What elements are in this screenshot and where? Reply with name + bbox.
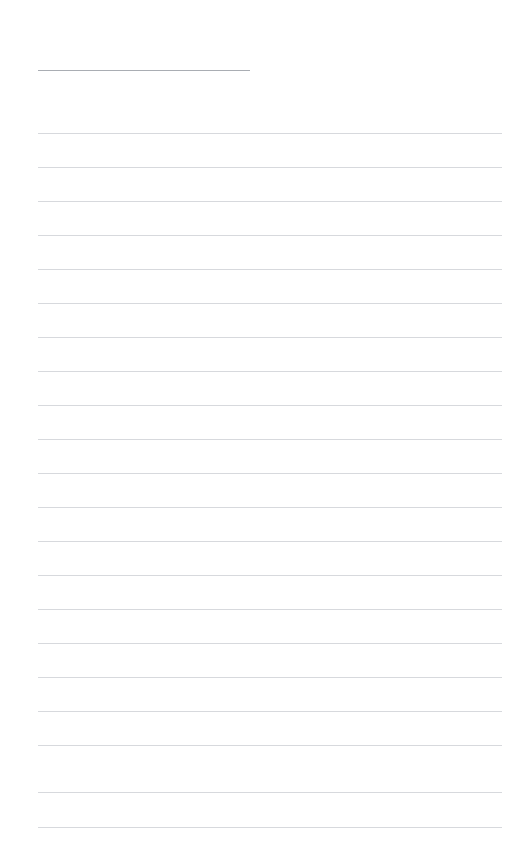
text-line-13[interactable] [38, 508, 502, 541]
text-line-10[interactable] [38, 406, 502, 439]
rule-line-21 [38, 827, 502, 828]
text-line-2[interactable] [38, 134, 502, 167]
text-line-15[interactable] [38, 576, 502, 609]
ruled-writing-area [0, 0, 518, 860]
text-line-3[interactable] [38, 168, 502, 201]
document-page [0, 0, 518, 860]
text-line-12[interactable] [38, 474, 502, 507]
text-line-8[interactable] [38, 338, 502, 371]
text-line-17[interactable] [38, 644, 502, 677]
text-line-9[interactable] [38, 372, 502, 405]
text-line-4[interactable] [38, 202, 502, 235]
rule-line-20 [38, 792, 502, 793]
text-line-7[interactable] [38, 304, 502, 337]
text-line-21[interactable] [38, 794, 502, 827]
text-line-1[interactable] [38, 100, 502, 133]
text-line-18[interactable] [38, 678, 502, 711]
text-line-20[interactable] [38, 755, 502, 788]
text-line-11[interactable] [38, 440, 502, 473]
text-line-19[interactable] [38, 712, 502, 745]
text-line-16[interactable] [38, 610, 502, 643]
rule-line-19 [38, 745, 502, 746]
text-line-6[interactable] [38, 270, 502, 303]
text-line-5[interactable] [38, 236, 502, 269]
text-line-14[interactable] [38, 542, 502, 575]
